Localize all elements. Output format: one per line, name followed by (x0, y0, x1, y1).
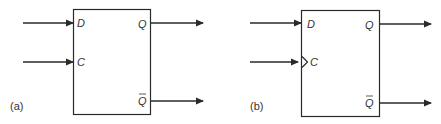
q-output-label: Q (138, 18, 147, 30)
c-input-label: C (77, 56, 85, 68)
panel-a: D C Q Q (a) (10, 10, 203, 115)
qbar-output-label: Q (138, 95, 147, 107)
qbar-output-label: Q (365, 97, 374, 109)
q-output-label: Q (365, 19, 374, 31)
c-input-label: C (310, 56, 318, 68)
panel-b: D C Q Q (b) (250, 11, 431, 117)
d-input-label: D (77, 17, 85, 29)
panel-caption: (a) (10, 100, 23, 112)
clock-edge-triangle-icon (302, 57, 308, 68)
d-input-label: D (307, 18, 315, 30)
flip-flop-diagram: D C Q Q (a) D C Q Q (b) (0, 0, 441, 124)
panel-caption: (b) (250, 100, 263, 112)
